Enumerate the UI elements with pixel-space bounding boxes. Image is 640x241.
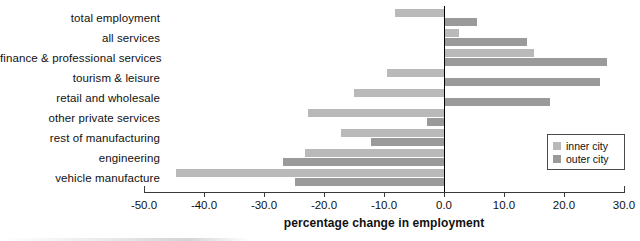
x-tick-label: -50.0 (114, 199, 174, 211)
bar-group (144, 88, 624, 108)
legend-label-inner-city: inner city (566, 140, 608, 152)
bar-group (144, 168, 624, 188)
category-label: rest of manufacturing (0, 132, 160, 144)
bar-inner-city (308, 109, 444, 117)
bar-group (144, 68, 624, 88)
x-tick (624, 186, 625, 193)
x-tick (324, 192, 325, 197)
bar-outer-city (283, 158, 444, 166)
bar-group (144, 28, 624, 48)
legend-swatch-inner-city (553, 142, 561, 150)
bar-group (144, 8, 624, 28)
x-tick-label: 0.0 (414, 199, 474, 211)
bar-outer-city (427, 118, 444, 126)
bar-outer-city (444, 58, 607, 66)
bar-outer-city (444, 38, 527, 46)
bar-inner-city (387, 69, 444, 77)
bar-inner-city (444, 29, 459, 37)
x-tick-label: 20.0 (534, 199, 594, 211)
legend-item-outer-city: outer city (553, 152, 619, 165)
x-tick (264, 192, 265, 197)
category-label: vehicle manufacture (0, 172, 160, 184)
category-label: tourism & leisure (0, 72, 160, 84)
bar-group (144, 108, 624, 128)
bar-inner-city (305, 149, 444, 157)
bar-outer-city (444, 98, 550, 106)
bar-inner-city (354, 89, 444, 97)
category-label: retail and wholesale (0, 92, 160, 104)
category-label: other private services (0, 112, 160, 124)
x-tick-label: 30.0 (594, 199, 640, 211)
category-label: finance & professional services (0, 52, 160, 64)
x-axis-title: percentage change in employment (144, 216, 624, 230)
category-axis-labels: total employmentall servicesfinance & pr… (0, 8, 160, 192)
x-tick-label: -20.0 (294, 199, 354, 211)
bar-inner-city (176, 169, 444, 177)
category-label: engineering (0, 152, 160, 164)
x-tick-label: -30.0 (234, 199, 294, 211)
bar-inner-city (395, 9, 444, 17)
x-tick-label: -10.0 (354, 199, 414, 211)
category-label: all services (0, 32, 160, 44)
x-tick (504, 192, 505, 197)
bar-inner-city (341, 129, 444, 137)
x-tick-label: 10.0 (474, 199, 534, 211)
x-tick (204, 192, 205, 197)
legend-label-outer-city: outer city (566, 153, 609, 165)
bar-group (144, 48, 624, 68)
legend-item-inner-city: inner city (553, 139, 619, 152)
chart-legend: inner city outer city (547, 134, 625, 170)
x-tick (144, 186, 145, 193)
bar-inner-city (444, 49, 534, 57)
x-tick-label: -40.0 (174, 199, 234, 211)
legend-swatch-outer-city (553, 155, 561, 163)
bar-outer-city (295, 178, 444, 186)
bar-outer-city (371, 138, 444, 146)
bar-outer-city (444, 78, 600, 86)
bar-outer-city (444, 18, 477, 26)
x-tick (384, 192, 385, 197)
x-tick (564, 192, 565, 197)
zero-baseline (444, 6, 445, 194)
x-tick (444, 192, 445, 197)
category-label: total employment (0, 12, 160, 24)
